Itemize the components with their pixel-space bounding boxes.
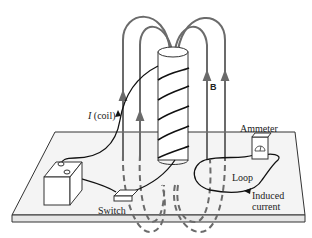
coil-text: (coil) — [94, 110, 116, 121]
coil-current-symbol: I — [88, 110, 91, 121]
field-label: B — [210, 82, 217, 93]
coil-label: I (coil) — [88, 110, 116, 121]
induced-current-label-line2: current — [252, 201, 280, 212]
cylinder-core — [158, 47, 188, 165]
induction-diagram: I (coil) B Ammeter Loop Induced current … — [0, 0, 312, 238]
switch-label: Switch — [98, 205, 126, 216]
induced-current-label-line1: Induced — [252, 190, 284, 201]
loop-label: Loop — [232, 172, 253, 183]
ammeter — [252, 133, 271, 159]
ammeter-label: Ammeter — [240, 123, 278, 134]
